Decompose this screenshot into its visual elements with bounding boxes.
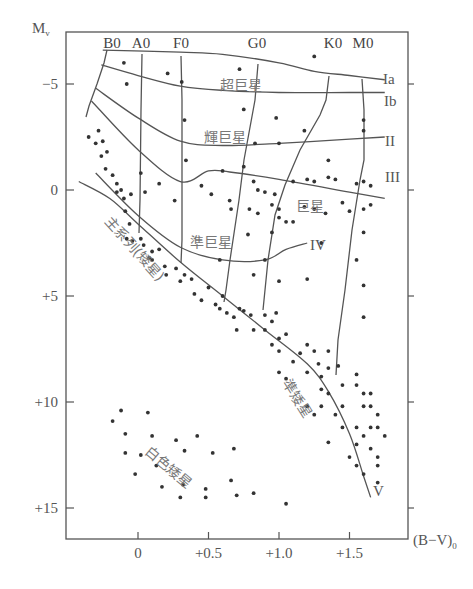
star-point (319, 387, 323, 391)
star-point (312, 180, 316, 184)
star-point (207, 286, 211, 290)
star-point (362, 118, 366, 122)
star-point (369, 203, 373, 207)
star-point (125, 82, 129, 86)
star-point (235, 328, 239, 332)
star-point (362, 231, 366, 235)
star-point (326, 175, 330, 179)
star-point (200, 184, 204, 188)
star-point (319, 375, 323, 379)
star-point (312, 55, 316, 59)
star-point (221, 294, 225, 298)
star-point (277, 141, 281, 145)
star-point (122, 61, 126, 65)
plot-frame (66, 32, 408, 539)
star-point (376, 413, 380, 417)
star-point (195, 434, 199, 438)
boundary-M0 (336, 79, 364, 375)
star-point (348, 209, 352, 213)
region-label-giant: 巨星 (296, 198, 324, 214)
star-point (253, 141, 257, 145)
y-tick-label: −5 (42, 76, 58, 92)
star-point (273, 192, 277, 196)
star-point (312, 413, 316, 417)
star-point (369, 184, 373, 188)
star-point (193, 292, 197, 296)
luminosity-class-lines (79, 50, 385, 497)
star-point (150, 434, 154, 438)
spectral-type-A0: A0 (132, 35, 150, 51)
star-point (94, 141, 98, 145)
star-point (341, 383, 345, 387)
star-point (362, 434, 366, 438)
star-point (355, 373, 359, 377)
star-point (305, 343, 309, 347)
star-point (369, 392, 373, 396)
star-point (235, 493, 239, 497)
star-point (277, 337, 281, 341)
star-point (355, 182, 359, 186)
y-tick-label: +15 (35, 500, 58, 516)
star-point (252, 273, 256, 277)
star-point (246, 233, 250, 237)
region-label-white-dwarf: 白色矮星 (142, 443, 195, 491)
star-point (355, 443, 359, 447)
star-point (277, 370, 281, 374)
star-point (362, 472, 366, 476)
star-point (180, 80, 184, 84)
star-point (305, 178, 309, 182)
star-point (183, 118, 187, 122)
star-point (252, 328, 256, 332)
star-point (376, 426, 380, 430)
star-point (341, 404, 345, 408)
star-point (326, 392, 330, 396)
star-point (291, 180, 295, 184)
spectral-type-K0: K0 (324, 35, 342, 51)
class-label-Ia: Ia (383, 71, 395, 87)
star-point (200, 298, 204, 302)
star-point (157, 247, 161, 251)
x-tick-label: +0.5 (195, 545, 222, 561)
star-point (326, 349, 330, 353)
spectral-type-F0: F0 (173, 35, 189, 51)
star-point (369, 447, 373, 451)
star-point (214, 303, 218, 307)
star-point (242, 309, 246, 313)
y-tick-label: +5 (42, 288, 58, 304)
star-point (277, 216, 281, 220)
star-point (256, 211, 260, 215)
star-point (284, 502, 288, 506)
star-point (355, 258, 359, 262)
star-point (183, 449, 187, 453)
boundary-F0 (181, 56, 182, 263)
star-point (355, 464, 359, 468)
star-point (242, 108, 246, 112)
star-point (157, 182, 161, 186)
star-point (238, 67, 242, 71)
star-point (101, 139, 105, 143)
star-point (174, 267, 178, 271)
star-point (383, 434, 387, 438)
star-point (218, 258, 222, 262)
y-axis-title: Mv (32, 20, 50, 38)
region-label-subdwarf: 準矮星 (279, 376, 315, 420)
star-point (362, 207, 366, 211)
star-points (87, 55, 387, 506)
star-point (128, 222, 132, 226)
star-point (160, 485, 164, 489)
star-point (123, 209, 127, 213)
star-point (341, 201, 345, 205)
star-point (270, 231, 274, 235)
star-point (146, 411, 150, 415)
star-point (123, 451, 127, 455)
region-label-subgiant: 準巨星 (190, 234, 232, 250)
star-point (111, 419, 115, 423)
star-point (291, 220, 295, 224)
star-point (139, 171, 143, 175)
star-point (376, 455, 380, 459)
star-point (326, 366, 330, 370)
star-point (362, 129, 366, 133)
star-point (184, 158, 188, 162)
star-point (291, 360, 295, 364)
star-point (252, 491, 256, 495)
